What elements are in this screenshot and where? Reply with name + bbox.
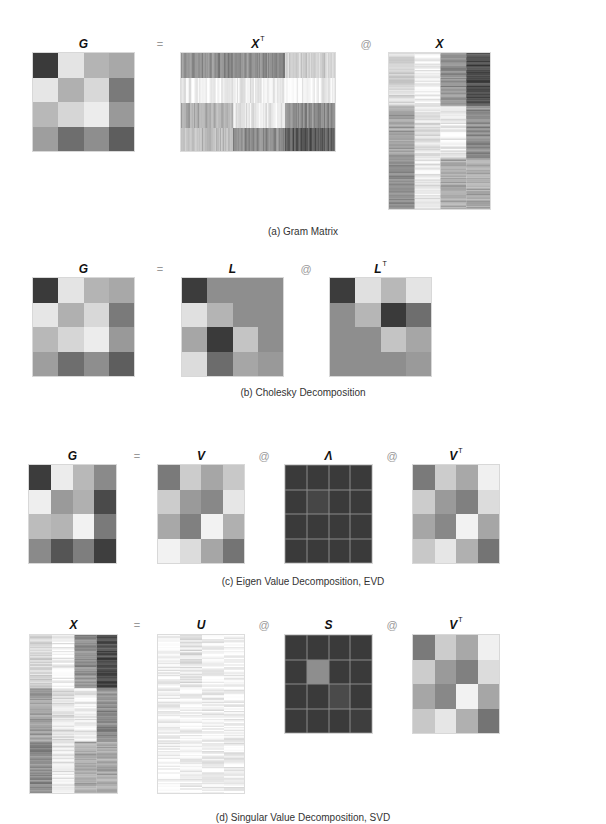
matrix-symbol: Λ <box>324 449 332 463</box>
matrix-cell <box>233 303 258 328</box>
matrix-cell <box>109 303 134 328</box>
matrix-cell <box>456 514 478 539</box>
matrix-cell <box>435 514 457 539</box>
matrix-cell <box>180 465 202 490</box>
matrix-cell <box>84 53 109 78</box>
matrix-cell <box>29 465 51 490</box>
matrix-cell <box>285 684 307 709</box>
matrix-cell <box>381 278 406 303</box>
transpose-superscript: T <box>458 447 462 454</box>
matrix-cell <box>285 539 307 564</box>
matrix-cell <box>158 514 180 539</box>
matmul-operator: @ <box>360 38 371 50</box>
equals-operator: = <box>157 38 163 50</box>
matrix-heatmap-s <box>284 634 373 734</box>
matrix-cell <box>307 635 329 660</box>
matrix-cell <box>158 490 180 515</box>
matrix-title: S <box>324 618 332 632</box>
figure-caption: (c) Eigen Value Decomposition, EVD <box>0 576 606 587</box>
matrix-cell <box>180 539 202 564</box>
matrix-cell <box>413 514 435 539</box>
matrix-cell <box>58 278 83 303</box>
matrix-cell <box>51 514 73 539</box>
matrix-symbol: X <box>251 37 259 51</box>
matrix-title: XT <box>251 37 264 51</box>
matrix-cell <box>456 709 478 734</box>
matrix-symbol: X <box>435 37 443 51</box>
matrix-cell <box>33 327 58 352</box>
figure-caption: (b) Cholesky Decomposition <box>0 387 606 398</box>
matrix-heatmap-v <box>157 464 245 564</box>
matrix-cell <box>406 352 431 377</box>
matrix-symbol: V <box>449 449 457 463</box>
matrix-cell <box>350 684 372 709</box>
matrix-cell <box>350 514 372 539</box>
matrix-cell <box>33 78 58 103</box>
matrix-cell <box>58 303 83 328</box>
matrix-cell <box>182 352 207 377</box>
matrix-cell <box>285 660 307 685</box>
matrix-cell <box>413 709 435 734</box>
matrix-cell <box>456 684 478 709</box>
matrix-title: G <box>79 37 88 51</box>
matrix-cell <box>329 539 351 564</box>
matrix-cell <box>406 327 431 352</box>
matrix-cell <box>180 514 202 539</box>
matrix-cell <box>182 327 207 352</box>
matrix-cell <box>435 490 457 515</box>
matrix-cell <box>109 53 134 78</box>
matrix-cell <box>285 514 307 539</box>
matrix-title: G <box>68 449 77 463</box>
matrix-cell <box>182 303 207 328</box>
matrix-cell <box>478 539 500 564</box>
matrix-cell <box>29 490 51 515</box>
matrix-cell <box>478 490 500 515</box>
matrix-cell <box>329 660 351 685</box>
matrix-cell <box>201 490 223 515</box>
matrix-cell <box>84 127 109 152</box>
matrix-cell <box>330 327 355 352</box>
matrix-cell <box>109 102 134 127</box>
equals-operator: = <box>157 263 163 275</box>
matrix-cell <box>329 684 351 709</box>
matrix-cell <box>258 327 283 352</box>
matrix-cell <box>329 490 351 515</box>
matrix-cell <box>350 465 372 490</box>
matrix-cell <box>29 539 51 564</box>
matrix-cell <box>73 490 95 515</box>
matrix-cell <box>180 490 202 515</box>
matrix-cell <box>456 465 478 490</box>
matrix-cell <box>478 660 500 685</box>
matrix-title: X <box>69 618 77 632</box>
matrix-cell <box>329 465 351 490</box>
matrix-cell <box>307 465 329 490</box>
matrix-cell <box>84 102 109 127</box>
matrix-symbol: G <box>79 262 88 276</box>
equals-operator: = <box>134 619 140 631</box>
matrix-cell <box>201 465 223 490</box>
matrix-cell <box>285 635 307 660</box>
matmul-operator: @ <box>386 450 397 462</box>
matrix-cell <box>307 660 329 685</box>
matrix-cell <box>58 78 83 103</box>
matmul-operator: @ <box>300 263 311 275</box>
matrix-cell <box>109 127 134 152</box>
matrix-cell <box>381 303 406 328</box>
matrix-heatmap-v-transpose <box>412 464 500 564</box>
matrix-cell <box>109 327 134 352</box>
matrix-cell <box>330 303 355 328</box>
matrix-cell <box>84 352 109 377</box>
figure-caption: (d) Singular Value Decomposition, SVD <box>0 812 606 823</box>
matrix-cell <box>406 278 431 303</box>
matrix-cell <box>233 352 258 377</box>
matrix-heatmap-g <box>32 277 135 377</box>
matrix-cell <box>233 327 258 352</box>
matrix-cell <box>84 327 109 352</box>
matrix-cell <box>207 352 232 377</box>
matrix-cell <box>478 635 500 660</box>
matrix-cell <box>207 327 232 352</box>
matrix-cell <box>109 78 134 103</box>
matrix-cell <box>58 102 83 127</box>
matrix-cell <box>223 465 245 490</box>
matrix-cell <box>456 660 478 685</box>
